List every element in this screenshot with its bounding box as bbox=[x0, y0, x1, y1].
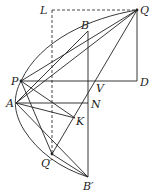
label-V: V bbox=[96, 82, 105, 95]
label-L: L bbox=[39, 4, 47, 17]
label-Qp: Q′ bbox=[41, 157, 53, 170]
segment-Q-Qp bbox=[52, 10, 137, 154]
segment-P-Q bbox=[21, 10, 137, 81]
label-Bp: B′ bbox=[82, 180, 94, 191]
point-P bbox=[20, 80, 23, 83]
segment-A-K bbox=[16, 103, 75, 118]
label-N: N bbox=[90, 98, 101, 111]
parabola-arc bbox=[15, 10, 137, 177]
label-K: K bbox=[75, 115, 85, 128]
label-A: A bbox=[5, 97, 14, 110]
segment-A-Q bbox=[16, 10, 137, 103]
label-B: B bbox=[80, 19, 89, 32]
point-Q bbox=[136, 9, 139, 12]
label-Q: Q bbox=[140, 4, 149, 17]
label-P: P bbox=[10, 75, 19, 88]
point-Qp bbox=[51, 153, 54, 156]
label-D: D bbox=[139, 76, 149, 89]
diagram-canvas: L Q B P D V A N K Q′ B′ bbox=[0, 0, 160, 191]
segment-Qp-Bp bbox=[52, 154, 88, 177]
